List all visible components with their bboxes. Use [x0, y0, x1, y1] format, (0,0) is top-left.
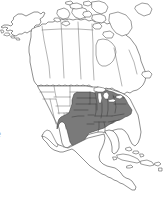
puerto-rico-island: [155, 162, 161, 166]
jamaica-island: [127, 165, 133, 168]
lesser-antilles-island: [159, 168, 162, 171]
aleutian-island-1: [4, 33, 10, 36]
aleutian-island-3: [16, 38, 20, 40]
arctic-island-ellesmere: [92, 1, 108, 14]
bahamas-island-2: [133, 151, 139, 154]
greenland-fragment: [135, 3, 152, 16]
clipped-edge-glyph: e: [0, 128, 9, 139]
bahamas-island-1: [126, 147, 132, 151]
north-america-map-svg: [0, 0, 163, 200]
lake-michigan: [98, 93, 102, 103]
arctic-island-small-b: [84, 1, 92, 6]
clipped-edge-glyph-text: e: [0, 128, 1, 139]
alaska-panhandle-island: [1, 30, 4, 33]
bahamas-island-3: [140, 154, 144, 157]
hispaniola-island: [141, 160, 154, 166]
florida-peninsula: [105, 130, 119, 154]
cuba-island: [117, 154, 140, 163]
map-figure: e: [0, 0, 163, 200]
arctic-island-prince-of-wales: [83, 11, 92, 17]
yucatan-offshore-island: [113, 157, 117, 160]
arctic-island-banks: [57, 8, 70, 19]
aleutian-island-2: [11, 36, 15, 38]
